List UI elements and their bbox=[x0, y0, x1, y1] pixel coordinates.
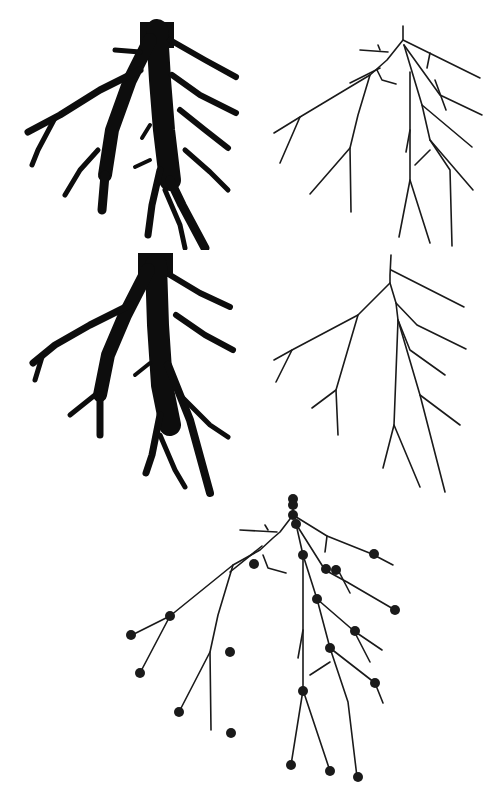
root-skeleton-pruned bbox=[250, 245, 497, 500]
root-graph-with-nodes bbox=[110, 490, 410, 800]
graph-edges bbox=[132, 500, 395, 777]
root-skeleton-pruned-graphic bbox=[250, 245, 497, 500]
root-silhouette-original-graphic bbox=[0, 0, 250, 250]
root-skeleton-original-graphic bbox=[250, 0, 497, 250]
graph-nodes bbox=[126, 494, 400, 782]
root-silhouette-pruned bbox=[0, 245, 250, 500]
root-silhouette-pruned-graphic bbox=[0, 245, 250, 500]
root-graph-with-nodes-graphic bbox=[110, 490, 410, 800]
root-silhouette-original bbox=[0, 0, 250, 250]
root-skeleton-original bbox=[250, 0, 497, 250]
